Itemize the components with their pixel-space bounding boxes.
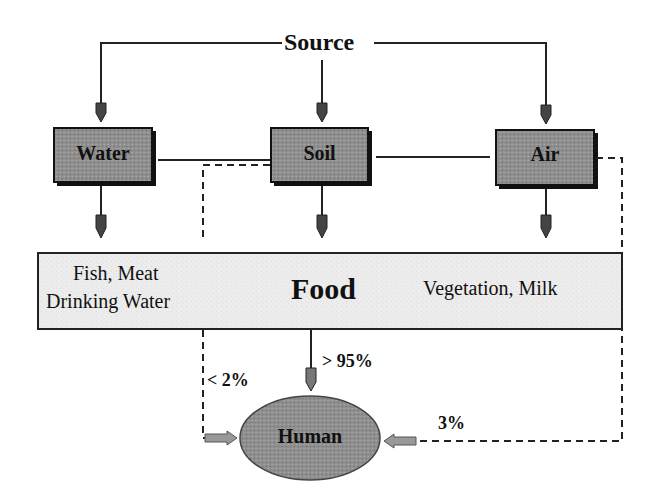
soil-to-human-percent: < 2% bbox=[207, 370, 249, 391]
human-label: Human bbox=[240, 425, 380, 448]
air-to-human-percent: 3% bbox=[438, 413, 465, 434]
food-left-line2: Drinking Water bbox=[46, 290, 170, 313]
soil-to-human-dashed-path bbox=[203, 165, 270, 242]
compartment-to-food-arrow-heads bbox=[96, 215, 551, 238]
water-box: Water bbox=[54, 142, 152, 165]
food-left-line1: Fish, Meat bbox=[73, 262, 159, 285]
soil-to-human-arrow-head bbox=[205, 431, 237, 445]
air-box: Air bbox=[496, 143, 594, 166]
soil-box: Soil bbox=[271, 142, 368, 165]
source-arrow-heads bbox=[96, 103, 551, 124]
food-to-human-percent: > 95% bbox=[322, 351, 373, 372]
air-to-human-arrow-head bbox=[384, 434, 416, 448]
food-right-text: Vegetation, Milk bbox=[423, 277, 557, 300]
food-to-human-arrow-head bbox=[306, 368, 316, 391]
source-label: Source bbox=[284, 29, 354, 56]
food-label: Food bbox=[291, 272, 356, 306]
